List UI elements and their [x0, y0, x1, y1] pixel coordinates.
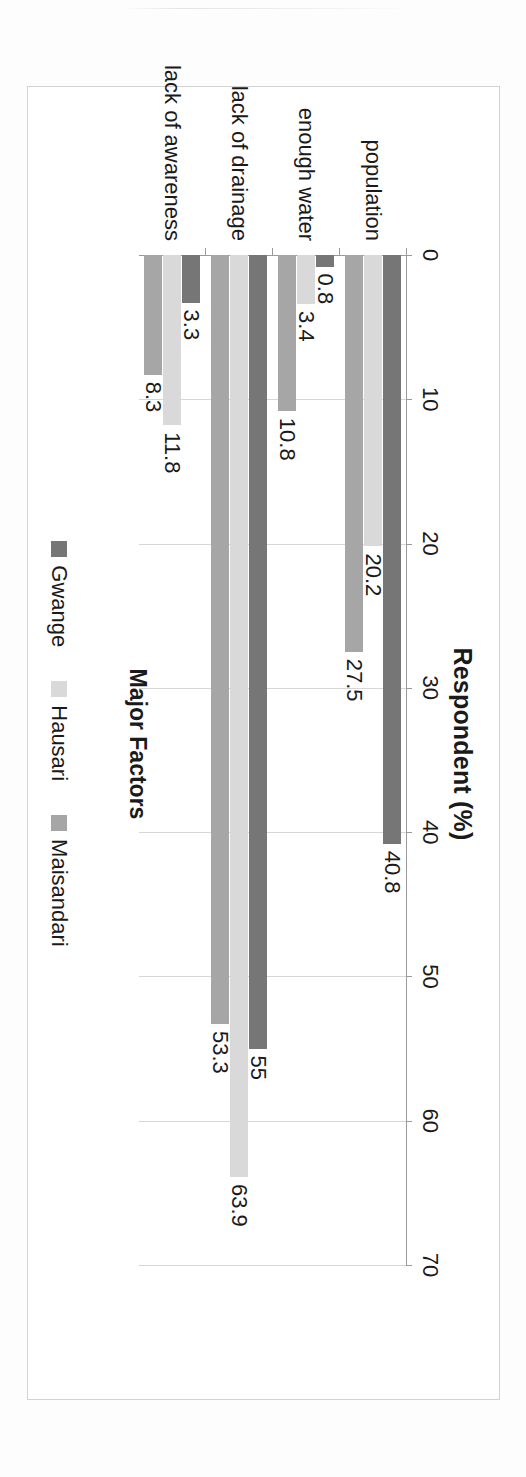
value-axis-tick-label: 30: [417, 676, 443, 700]
bar-hausari[interactable]: 3.4: [298, 255, 316, 304]
bar-value-label: 53.3: [208, 1031, 234, 1074]
category-label: enough water: [294, 108, 320, 241]
bar-group: enough water0.83.410.8: [273, 255, 340, 1265]
category-label: lack of awareness: [160, 65, 186, 241]
legend-swatch-icon: [51, 681, 67, 697]
legend-label: Maisandari: [46, 839, 72, 947]
legend-label: Gwange: [46, 565, 72, 647]
bar-gwange[interactable]: 0.8: [317, 255, 335, 267]
chart-frame: Respondent (%) 010203040506070 populatio…: [27, 86, 500, 1400]
chart-inner: Respondent (%) 010203040506070 populatio…: [28, 87, 499, 1399]
category-label: lack of drainage: [227, 86, 253, 241]
bar-gwange[interactable]: 40.8: [384, 255, 402, 844]
category-label: population: [361, 139, 387, 241]
legend-item-hausari[interactable]: Hausari: [46, 681, 72, 781]
bar-maisandari[interactable]: 10.8: [279, 255, 297, 411]
value-axis-tick-labels: 010203040506070: [413, 87, 443, 1401]
category-separator-tick: [205, 248, 206, 255]
chart-legend: GwangeHausariMaisandari: [46, 87, 72, 1401]
bar-group: population40.820.227.5: [340, 255, 407, 1265]
bar-value-label: 0.8: [313, 274, 339, 305]
value-axis-tick-label: 0: [417, 249, 443, 261]
bar-group: lack of drainage5563.953.3: [206, 255, 273, 1265]
value-axis-tick-label: 10: [417, 387, 443, 411]
bar-value-label: 11.8: [160, 432, 186, 473]
value-axis-tick-label: 50: [417, 964, 443, 988]
plot-area: population40.820.227.5enough water0.83.4…: [139, 255, 407, 1265]
bar-maisandari[interactable]: 53.3: [212, 255, 230, 1024]
bar-gwange[interactable]: 55: [250, 255, 268, 1049]
legend-item-gwange[interactable]: Gwange: [46, 541, 72, 647]
scanned-page: Respondent (%) 010203040506070 populatio…: [0, 0, 526, 1477]
value-axis-title: Respondent (%): [448, 87, 477, 1401]
legend-swatch-icon: [51, 815, 67, 831]
value-axis-tick-label: 20: [417, 531, 443, 555]
bar-value-label: 55: [246, 1056, 272, 1080]
category-separator-tick: [406, 248, 407, 255]
gridline: [139, 1265, 407, 1266]
bar-value-label: 40.8: [380, 851, 406, 894]
bar-value-label: 3.3: [179, 310, 205, 341]
rotated-figure-wrapper: Respondent (%) 010203040506070 populatio…: [27, 86, 500, 1400]
category-separator-tick: [272, 248, 273, 255]
value-axis-tick-label: 70: [417, 1253, 443, 1277]
value-axis-tick-label: 60: [417, 1108, 443, 1132]
bar-gwange[interactable]: 3.3: [183, 255, 201, 303]
bar-hausari[interactable]: 20.2: [365, 255, 383, 546]
scan-artifact-line: [120, 8, 420, 9]
bar-maisandari[interactable]: 27.5: [346, 255, 364, 652]
bar-value-label: 10.8: [275, 418, 301, 461]
bar-value-label: 27.5: [342, 659, 368, 702]
legend-label: Hausari: [46, 705, 72, 781]
legend-item-maisandari[interactable]: Maisandari: [46, 815, 72, 947]
legend-swatch-icon: [51, 541, 67, 557]
bar-value-label: 63.9: [227, 1184, 253, 1227]
value-axis-tick-label: 40: [417, 820, 443, 844]
category-axis-title: Major Factors: [124, 87, 151, 1401]
bar-value-label: 20.2: [361, 553, 387, 596]
bar-value-label: 3.4: [294, 311, 320, 342]
category-separator-tick: [339, 248, 340, 255]
axis-tickmark: [406, 1265, 412, 1266]
